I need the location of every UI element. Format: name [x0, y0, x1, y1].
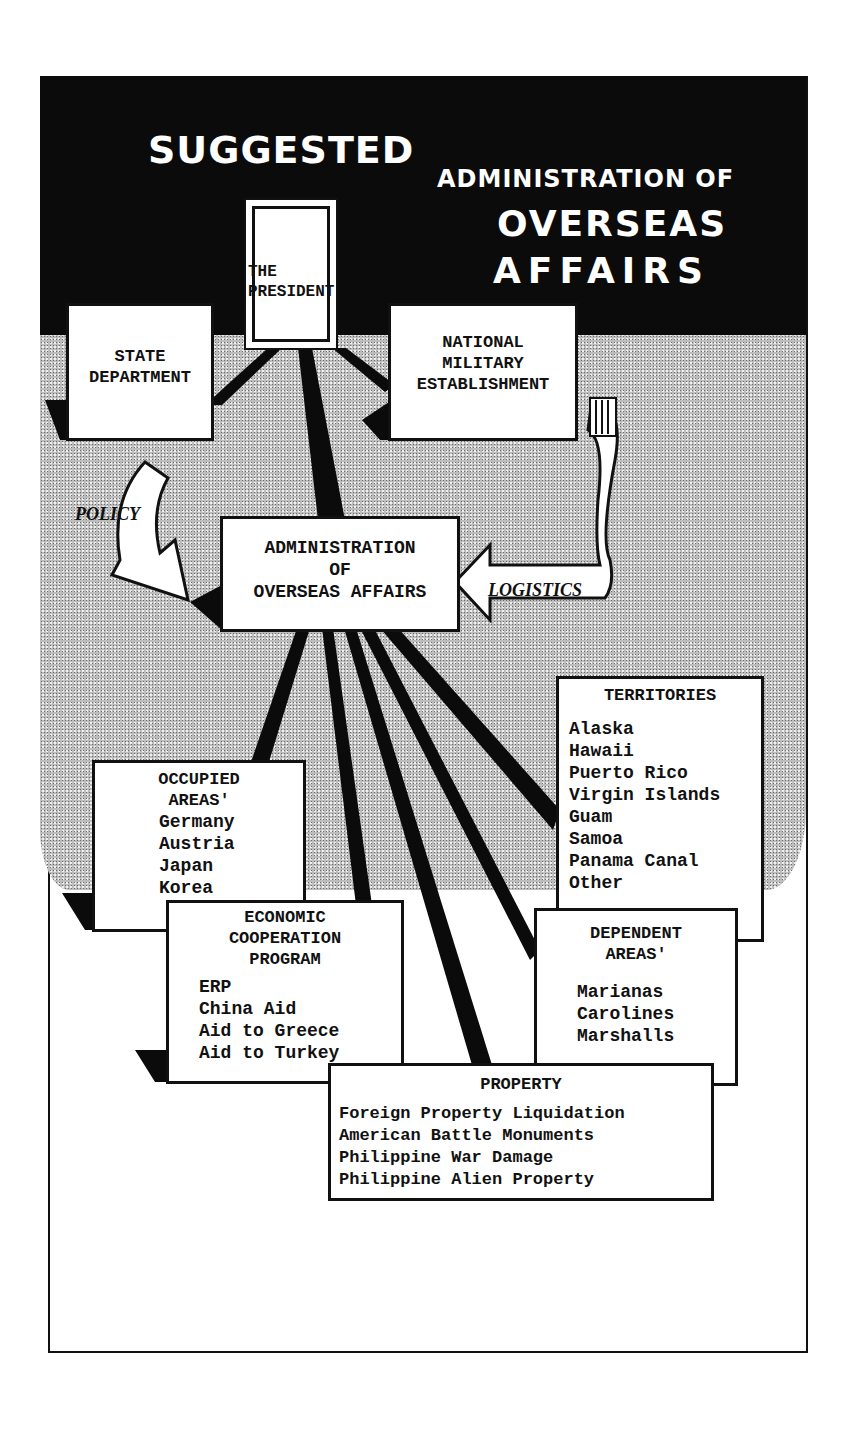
territory-item: Alaska	[569, 718, 761, 740]
military-label-1: NATIONAL	[391, 332, 575, 353]
admin-label-1: ADMINISTRATION	[223, 537, 457, 559]
economic-cooperation-box: ECONOMIC COOPERATION PROGRAM ERP China A…	[166, 900, 404, 1084]
territory-item: Other	[569, 872, 761, 894]
admin-overseas-affairs-box: ADMINISTRATION OF OVERSEAS AFFAIRS	[220, 516, 460, 632]
occupied-item: Korea	[159, 877, 303, 899]
occupied-header-1: OCCUPIED	[95, 769, 303, 790]
economic-header-3: PROGRAM	[169, 949, 401, 970]
president-label-1: THE	[248, 262, 334, 282]
property-box: PROPERTY Foreign Property Liquidation Am…	[328, 1063, 714, 1201]
property-item: Philippine War Damage	[339, 1147, 711, 1169]
policy-arrow-label: POLICY	[75, 504, 140, 525]
military-label-3: ESTABLISHMENT	[391, 374, 575, 395]
territory-item: Guam	[569, 806, 761, 828]
property-item: Foreign Property Liquidation	[339, 1103, 711, 1125]
economic-header-2: COOPERATION	[169, 928, 401, 949]
occupied-item: Japan	[159, 855, 303, 877]
dependent-areas-box: DEPENDENT AREAS' Marianas Carolines Mars…	[534, 908, 738, 1086]
property-item: Philippine Alien Property	[339, 1169, 711, 1191]
territory-item: Hawaii	[569, 740, 761, 762]
economic-header-1: ECONOMIC	[169, 907, 401, 928]
military-label-2: MILITARY	[391, 353, 575, 374]
property-item: American Battle Monuments	[339, 1125, 711, 1147]
economic-item: Aid to Greece	[199, 1020, 401, 1042]
dependent-header-1: DEPENDENT	[537, 923, 735, 944]
economic-item: Aid to Turkey	[199, 1042, 401, 1064]
admin-label-3: OVERSEAS AFFAIRS	[223, 581, 457, 603]
dependent-header-2: AREAS'	[537, 944, 735, 965]
state-label-1: STATE	[69, 346, 211, 367]
economic-item: China Aid	[199, 998, 401, 1020]
territory-item: Panama Canal	[569, 850, 761, 872]
occupied-item: Austria	[159, 833, 303, 855]
dependent-item: Marianas	[577, 981, 735, 1003]
territory-item: Puerto Rico	[569, 762, 761, 784]
occupied-header-2: AREAS'	[95, 790, 303, 811]
state-department-box: STATE DEPARTMENT	[66, 303, 214, 441]
president-label-2: PRESIDENT	[248, 282, 334, 302]
logistics-arrow-label: LOGISTICS	[488, 580, 582, 601]
territories-box: TERRITORIES Alaska Hawaii Puerto Rico Vi…	[556, 676, 764, 942]
dependent-item: Marshalls	[577, 1025, 735, 1047]
admin-label-2: OF	[223, 559, 457, 581]
dependent-item: Carolines	[577, 1003, 735, 1025]
territory-item: Virgin Islands	[569, 784, 761, 806]
territory-item: Samoa	[569, 828, 761, 850]
property-header: PROPERTY	[331, 1074, 711, 1095]
territories-header: TERRITORIES	[559, 685, 761, 706]
president-box: THE PRESIDENT	[244, 198, 338, 350]
economic-item: ERP	[199, 976, 401, 998]
state-label-2: DEPARTMENT	[69, 367, 211, 388]
military-establishment-box: NATIONAL MILITARY ESTABLISHMENT	[388, 303, 578, 441]
occupied-item: Germany	[159, 811, 303, 833]
